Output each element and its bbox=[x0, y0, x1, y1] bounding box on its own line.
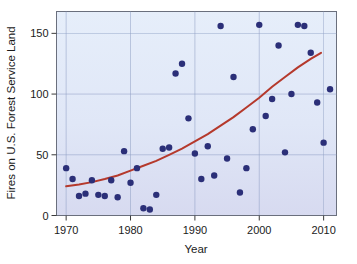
data-point bbox=[147, 206, 153, 212]
x-tick-label: 1980 bbox=[118, 224, 142, 236]
data-point bbox=[256, 22, 262, 28]
data-point bbox=[320, 139, 326, 145]
data-point bbox=[108, 177, 114, 183]
data-point bbox=[114, 194, 120, 200]
y-tick-label: 0 bbox=[42, 210, 48, 222]
y-axis-ticks: 050100150 bbox=[30, 27, 56, 221]
data-point bbox=[127, 180, 133, 186]
data-point bbox=[69, 176, 75, 182]
data-point bbox=[153, 192, 159, 198]
data-point bbox=[211, 172, 217, 178]
data-point bbox=[250, 126, 256, 132]
data-point bbox=[82, 190, 88, 196]
data-point bbox=[179, 61, 185, 67]
data-point bbox=[308, 50, 314, 56]
data-point bbox=[269, 96, 275, 102]
data-point bbox=[198, 176, 204, 182]
data-point bbox=[327, 86, 333, 92]
data-point bbox=[102, 193, 108, 199]
x-tick-label: 1970 bbox=[54, 224, 78, 236]
plot-panel bbox=[57, 12, 337, 216]
data-point bbox=[275, 42, 281, 48]
scatter-plot: 050100150 19701980199020002010 Year Fire… bbox=[0, 0, 357, 264]
data-point bbox=[243, 165, 249, 171]
data-point bbox=[63, 165, 69, 171]
x-axis-ticks: 19701980199020002010 bbox=[54, 216, 336, 236]
data-point bbox=[301, 23, 307, 29]
data-point bbox=[205, 143, 211, 149]
data-point bbox=[282, 149, 288, 155]
data-point bbox=[262, 113, 268, 119]
x-axis-title: Year bbox=[184, 243, 207, 255]
data-point bbox=[95, 192, 101, 198]
data-point bbox=[166, 144, 172, 150]
data-point bbox=[314, 99, 320, 105]
data-point bbox=[230, 74, 236, 80]
data-point bbox=[134, 165, 140, 171]
data-point bbox=[217, 23, 223, 29]
data-point bbox=[76, 193, 82, 199]
y-axis-title: Fires on U.S. Forest Service Land bbox=[5, 26, 17, 199]
data-point bbox=[172, 70, 178, 76]
data-point bbox=[140, 205, 146, 211]
data-point bbox=[192, 150, 198, 156]
data-point bbox=[185, 115, 191, 121]
data-point bbox=[224, 155, 230, 161]
data-point bbox=[160, 146, 166, 152]
data-point bbox=[295, 22, 301, 28]
chart-figure: 050100150 19701980199020002010 Year Fire… bbox=[0, 0, 357, 264]
data-point bbox=[237, 189, 243, 195]
data-point bbox=[89, 177, 95, 183]
y-tick-label: 50 bbox=[36, 149, 48, 161]
data-point bbox=[121, 148, 127, 154]
y-tick-label: 100 bbox=[30, 88, 48, 100]
data-point bbox=[288, 91, 294, 97]
x-tick-label: 2000 bbox=[247, 224, 271, 236]
y-tick-label: 150 bbox=[30, 27, 48, 39]
x-tick-label: 1990 bbox=[183, 224, 207, 236]
x-tick-label: 2010 bbox=[311, 224, 335, 236]
